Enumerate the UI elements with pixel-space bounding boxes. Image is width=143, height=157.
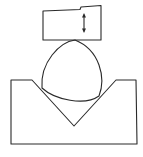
lobed-workpiece — [42, 40, 102, 101]
double-arrow-icon — [82, 13, 86, 33]
v-block — [11, 80, 137, 144]
v-block-diagram — [0, 0, 143, 157]
anvil — [43, 6, 101, 41]
